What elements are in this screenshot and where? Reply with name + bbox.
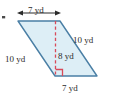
arrow-right-head-icon bbox=[55, 11, 61, 16]
height-length-label: 8 yd bbox=[58, 52, 74, 61]
bottom-side-length-label: 7 yd bbox=[62, 84, 78, 93]
left-side-length-label: 10 yd bbox=[5, 55, 25, 64]
arrow-left-head-icon bbox=[17, 11, 23, 16]
page-marker-glyph bbox=[2, 16, 5, 18]
figure-canvas bbox=[0, 0, 113, 97]
top-side-length-label: 7 yd bbox=[28, 6, 44, 15]
parallelogram-figure: 7 yd 10 yd 10 yd 8 yd 7 yd bbox=[0, 0, 113, 97]
right-side-length-label: 10 yd bbox=[73, 36, 93, 45]
parallelogram-shape bbox=[18, 21, 97, 76]
